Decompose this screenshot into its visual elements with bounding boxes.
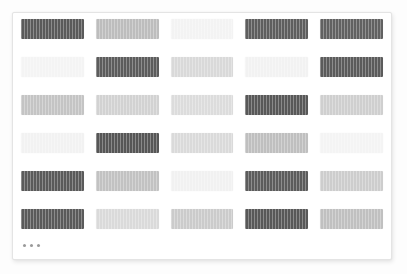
placeholder-bar[interactable]: [21, 133, 84, 153]
placeholder-bar[interactable]: [320, 133, 383, 153]
placeholder-bar[interactable]: [320, 57, 383, 77]
placeholder-bar[interactable]: [21, 209, 84, 229]
placeholder-bar[interactable]: [245, 19, 308, 39]
placeholder-bar[interactable]: [320, 19, 383, 39]
placeholder-bar[interactable]: [245, 209, 308, 229]
placeholder-bar[interactable]: [21, 57, 84, 77]
app-root: ...: [0, 0, 407, 274]
placeholder-bar[interactable]: [21, 95, 84, 115]
placeholder-grid: [21, 19, 383, 229]
placeholder-bar[interactable]: [171, 133, 234, 153]
placeholder-bar[interactable]: [245, 133, 308, 153]
placeholder-bar[interactable]: [245, 57, 308, 77]
placeholder-bar[interactable]: [96, 209, 159, 229]
placeholder-bar[interactable]: [171, 209, 234, 229]
more-indicator[interactable]: ...: [23, 244, 40, 247]
placeholder-bar[interactable]: [171, 171, 234, 191]
placeholder-bar[interactable]: [245, 171, 308, 191]
placeholder-bar[interactable]: [96, 57, 159, 77]
placeholder-bar[interactable]: [171, 57, 234, 77]
placeholder-bar[interactable]: [320, 95, 383, 115]
placeholder-bar[interactable]: [96, 171, 159, 191]
placeholder-bar[interactable]: [320, 209, 383, 229]
placeholder-bar[interactable]: [96, 133, 159, 153]
ellipsis-dot-2: [30, 244, 33, 247]
placeholder-bar[interactable]: [171, 95, 234, 115]
placeholder-bar[interactable]: [171, 19, 234, 39]
ellipsis-dot-1: [23, 244, 26, 247]
placeholder-bar[interactable]: [245, 95, 308, 115]
placeholder-bar[interactable]: [320, 171, 383, 191]
placeholder-bar[interactable]: [96, 19, 159, 39]
placeholder-bar[interactable]: [21, 171, 84, 191]
placeholder-bar[interactable]: [21, 19, 84, 39]
placeholder-card: ...: [12, 12, 392, 260]
ellipsis-dot-3: [37, 244, 40, 247]
placeholder-bar[interactable]: [96, 95, 159, 115]
